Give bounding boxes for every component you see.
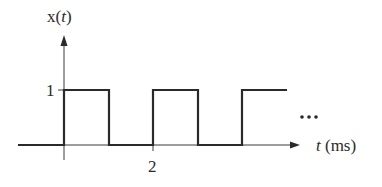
x-axis-arrow-icon [290, 142, 300, 149]
y-tick-label: 1 [46, 81, 55, 100]
x-tick-label: 2 [148, 157, 157, 176]
y-axis-label: x(t) [47, 7, 72, 26]
continuation-dots-icon [300, 115, 318, 119]
y-axis-arrow-icon [61, 35, 68, 46]
x-axis-label: t (ms) [316, 136, 356, 155]
square-wave [18, 90, 287, 145]
signal-diagram: x(t) 1 2 t (ms) [0, 0, 382, 187]
